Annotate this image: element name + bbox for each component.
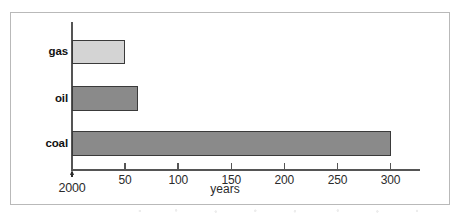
origin-arrow-stem: [71, 172, 73, 177]
category-label-coal: coal: [4, 137, 68, 149]
x-tick-mark-100: [177, 163, 179, 170]
x-tick-mark-150: [231, 163, 233, 170]
x-tick-mark-50: [124, 163, 126, 170]
bar-oil: [72, 86, 138, 111]
category-label-gas: gas: [4, 45, 68, 57]
x-tick-mark-300: [390, 163, 392, 170]
bar-coal: [72, 131, 391, 156]
x-tick-label-200: 200: [264, 173, 304, 187]
bar-gas: [72, 40, 125, 64]
category-label-oil: oil: [4, 92, 68, 104]
x-tick-mark-200: [284, 163, 286, 170]
scan-artifact: [120, 208, 450, 214]
x-axis-title: years: [180, 182, 270, 196]
x-tick-mark-250: [337, 163, 339, 170]
x-tick-label-50: 50: [105, 173, 145, 187]
origin-year-label: 2000: [51, 181, 93, 195]
x-tick-label-250: 250: [317, 173, 357, 187]
x-tick-label-300: 300: [371, 173, 411, 187]
bar-chart: gas oil coal 50 100 150 200 250 300 2000…: [0, 0, 459, 216]
